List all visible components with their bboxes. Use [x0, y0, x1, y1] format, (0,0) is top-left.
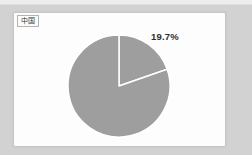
- pie-chart: [14, 13, 225, 146]
- top-edge-strip: [0, 0, 252, 5]
- screen: 中国 19.7%: [0, 0, 252, 155]
- pie-slice-label: 19.7%: [151, 31, 179, 42]
- chart-panel: 中国 19.7%: [13, 12, 226, 147]
- legend-label: 中国: [21, 17, 35, 24]
- legend-item-china[interactable]: 中国: [17, 15, 39, 27]
